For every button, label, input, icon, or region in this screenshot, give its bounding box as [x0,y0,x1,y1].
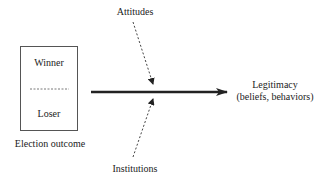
winner-label: Winner [20,57,78,69]
attitudes-arrow [133,22,153,84]
legitimacy-sublabel: (beliefs, behaviors) [226,91,324,103]
institutions-arrow [133,99,153,157]
loser-label: Loser [20,108,78,120]
election-outcome-caption: Election outcome [4,138,96,150]
attitudes-label: Attitudes [105,6,165,18]
institutions-label: Institutions [100,163,170,175]
legitimacy-label: Legitimacy [230,79,320,91]
